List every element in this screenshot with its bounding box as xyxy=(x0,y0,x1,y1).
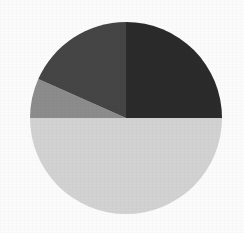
pie-chart-canvas xyxy=(0,0,244,233)
pie-slice-2 xyxy=(30,118,222,214)
pie-chart-figure xyxy=(0,0,244,233)
pie-slice-group xyxy=(30,22,222,214)
pie-slice-1 xyxy=(126,22,222,118)
